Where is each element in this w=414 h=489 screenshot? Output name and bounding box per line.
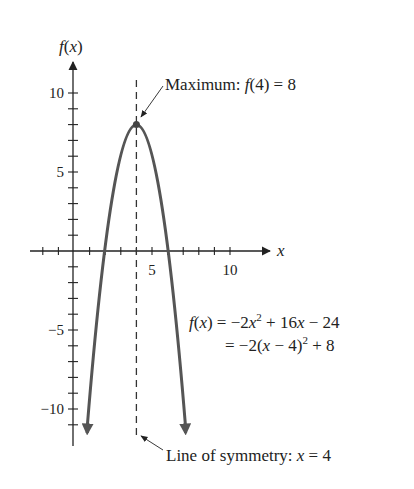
eq1-rest-c: − 24 xyxy=(304,313,339,332)
y-tick-label-neg5: −5 xyxy=(48,322,64,338)
x-axis-title: x xyxy=(276,241,285,260)
y-axis xyxy=(68,62,78,446)
eq1-rest-a: ) = −2 xyxy=(207,313,249,332)
x-axis xyxy=(30,247,270,255)
eq2-b: − 4) xyxy=(270,336,302,355)
sym-prefix: Line of symmetry: xyxy=(166,446,297,465)
max-annotation-arrow xyxy=(141,86,163,117)
equation-standard-form: f(x) = −2x2 + 16x − 24 xyxy=(189,311,340,333)
parabola-chart: 10 5 −5 −10 5 10 x f(x) xyxy=(0,0,414,489)
x-tick-label-10: 10 xyxy=(223,262,238,278)
eq2-x: x xyxy=(263,336,271,355)
max-prefix: Maximum: xyxy=(165,75,245,94)
eq1-x: x xyxy=(199,313,207,332)
x-tick-label-5: 5 xyxy=(148,262,156,278)
sym-rest: = 4 xyxy=(304,446,331,465)
symmetry-annotation-arrow xyxy=(141,436,163,450)
y-axis-title: f(x) xyxy=(59,37,83,56)
vertex-point xyxy=(133,121,140,128)
y-tick-label-5: 5 xyxy=(57,164,65,180)
symmetry-annotation: Line of symmetry: x = 4 xyxy=(166,446,331,466)
equation-vertex-form: = −2(x − 4)2 + 8 xyxy=(225,334,334,356)
max-rest: (4) = 8 xyxy=(250,75,296,94)
eq1-rest-b: + 16 xyxy=(262,313,297,332)
eq2-c: + 8 xyxy=(308,336,335,355)
maximum-annotation: Maximum: f(4) = 8 xyxy=(165,75,296,95)
y-tick-label-neg10: −10 xyxy=(41,401,64,417)
y-tick-label-10: 10 xyxy=(49,85,64,101)
eq2-a: = −2( xyxy=(225,336,263,355)
